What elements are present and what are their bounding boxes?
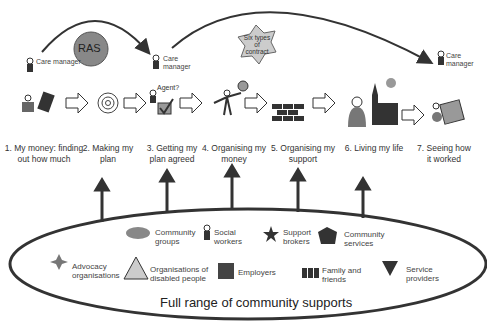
agent-label: Agent?	[157, 84, 179, 91]
employers-icon	[218, 263, 234, 279]
community-services-icon	[318, 227, 337, 244]
employers-label: Employers	[238, 268, 276, 277]
step-1-label: 1. My money: finding out how much	[4, 143, 84, 165]
social-workers-icon	[204, 225, 210, 240]
step-6-label: 6. Living my life	[344, 143, 404, 154]
family-icon	[302, 268, 319, 278]
up-arrows	[96, 166, 369, 222]
support-brokers-icon	[263, 226, 279, 242]
care-manager-label-3: Care manager	[446, 52, 478, 68]
community-groups-icon	[126, 227, 150, 239]
step-2-label: 2. Making my plan	[78, 143, 138, 165]
supports-title: Full range of community supports	[160, 295, 352, 310]
step-3-label: 3. Getting my plan agreed	[142, 143, 202, 165]
step-icons	[22, 78, 464, 127]
advocacy-icon	[50, 254, 68, 270]
curve-arrow-2	[172, 12, 430, 62]
step-4-label: 4. Organising my money	[200, 143, 268, 165]
disabled-people-icon	[124, 257, 148, 279]
service-providers-label: Service providers	[406, 265, 446, 283]
community-groups-label: Community groups	[155, 228, 195, 246]
service-providers-icon	[382, 261, 398, 276]
care-manager-icon-3	[438, 51, 444, 65]
advocacy-label: Advocacy organisations	[72, 262, 122, 280]
care-manager-label-1: Care manager	[36, 58, 81, 66]
family-label: Family and friends	[322, 266, 362, 284]
step-5-label: 5. Organising my support	[270, 143, 336, 165]
social-workers-label: Social workers	[214, 228, 249, 246]
contract-label: Six types of contract	[242, 34, 272, 55]
care-manager-icon-2	[153, 55, 159, 69]
step-7-label: 7. Seeing how it worked	[414, 143, 474, 165]
ras-label: RAS	[78, 42, 101, 54]
care-manager-icon-1	[27, 58, 33, 72]
care-manager-label-2: Care manager	[163, 55, 195, 71]
community-services-label: Community services	[344, 230, 389, 248]
support-brokers-label: Support brokers	[283, 228, 318, 246]
disabled-people-label: Organisations of disabled people	[150, 265, 210, 283]
